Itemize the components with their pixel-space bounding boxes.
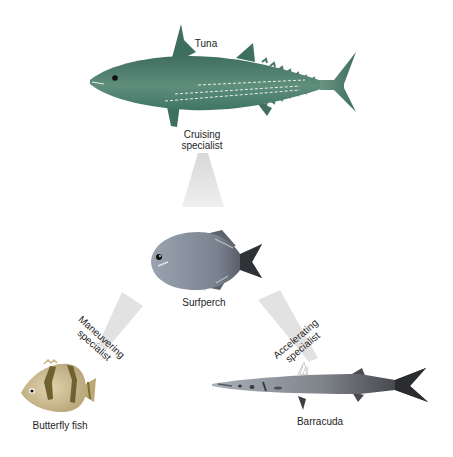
cruising-beam bbox=[182, 153, 224, 207]
tuna-label: Tuna bbox=[190, 38, 222, 49]
butterfly-fish-illustration bbox=[21, 360, 96, 412]
barracuda-label: Barracuda bbox=[290, 416, 350, 427]
tuna-illustration bbox=[90, 24, 356, 127]
barracuda-illustration bbox=[212, 362, 428, 410]
butterfly-fish-label: Butterfly fish bbox=[20, 420, 100, 431]
cruising-specialist-label: Cruising specialist bbox=[172, 129, 232, 151]
fish-specialization-diagram: Tuna Cruising specialist Surfperch Maneu… bbox=[0, 0, 453, 457]
surfperch-label: Surfperch bbox=[176, 297, 232, 308]
surfperch-illustration bbox=[151, 230, 262, 292]
cruising-label-line1: Cruising bbox=[172, 129, 232, 140]
diagram-canvas bbox=[0, 0, 453, 457]
cruising-label-line2: specialist bbox=[172, 140, 232, 151]
